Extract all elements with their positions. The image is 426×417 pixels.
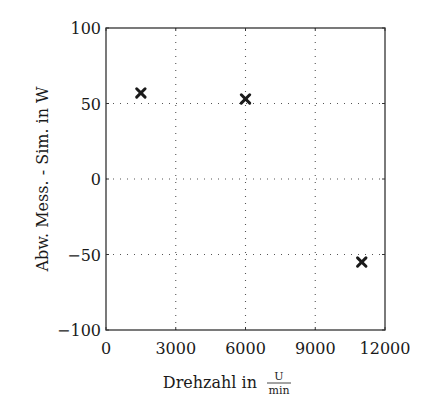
y-tick-label: −100 xyxy=(57,321,101,340)
y-tick-label: −50 xyxy=(67,246,101,265)
x-marker-icon xyxy=(137,89,145,97)
x-tick-label: 9000 xyxy=(295,339,336,358)
scatter-chart: −100−50050100 030006000900012000 Abw. Me… xyxy=(0,0,426,417)
x-tick-label: 0 xyxy=(101,339,111,358)
data-markers xyxy=(137,89,366,267)
y-tick-label: 50 xyxy=(81,95,101,114)
x-marker-icon xyxy=(358,258,366,266)
y-tick-label: 0 xyxy=(91,170,101,189)
x-axis-unit-numerator: U xyxy=(274,370,283,383)
grid-lines xyxy=(106,28,385,330)
x-tick-label: 12000 xyxy=(360,339,411,358)
x-marker-icon xyxy=(241,95,249,103)
x-axis-label-text: Drehzahl in xyxy=(163,373,257,392)
y-axis-label: Abw. Mess. - Sim. in W xyxy=(33,86,52,273)
x-axis-unit-denominator: min xyxy=(268,384,289,397)
x-tick-label: 6000 xyxy=(225,339,266,358)
x-axis-label: Drehzahl in U min xyxy=(163,370,291,397)
y-tick-label: 100 xyxy=(70,19,101,38)
x-axis-ticks: 030006000900012000 xyxy=(101,28,411,358)
x-tick-label: 3000 xyxy=(155,339,196,358)
plot-area-frame xyxy=(106,28,385,330)
